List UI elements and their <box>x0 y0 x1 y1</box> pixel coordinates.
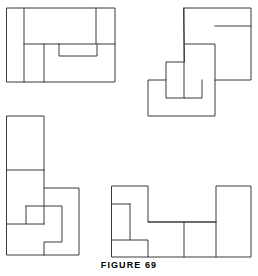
figure-bottom-right <box>112 186 251 257</box>
figure-caption: FIGURE 69 <box>0 260 258 270</box>
figure-bottom-left <box>7 116 79 255</box>
figure-top-left-outline <box>7 8 115 82</box>
figure-bottom-left-outline <box>7 116 79 255</box>
figure-top-right-outline <box>148 8 251 116</box>
figure-top-right <box>148 8 251 116</box>
figure-top-left <box>7 8 115 82</box>
figure-plate: FIGURE 69 <box>0 0 258 276</box>
dissection-figures-svg <box>0 0 258 276</box>
